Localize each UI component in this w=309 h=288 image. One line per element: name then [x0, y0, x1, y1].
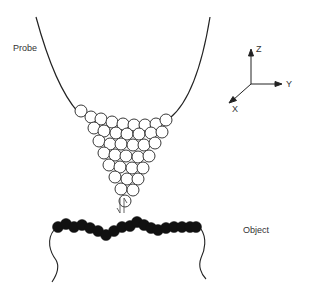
object-right-edge [200, 229, 206, 279]
probe-left-wall [36, 17, 78, 112]
axis-z-label: Z [256, 45, 262, 54]
coordinate-axes [229, 49, 282, 103]
y-arrow-head [275, 82, 282, 87]
axis-y-label: Y [286, 80, 292, 89]
probe-object-diagram [0, 0, 309, 288]
probe-tip-spheres [75, 105, 172, 207]
probe-label: Probe [13, 44, 37, 53]
object-left-edge [50, 230, 58, 282]
z-arrow-head [249, 49, 254, 56]
axis-x-label: X [232, 105, 238, 114]
probe-right-wall [170, 17, 210, 118]
object-label: Object [243, 226, 269, 235]
object-surface-spheres [53, 217, 202, 241]
